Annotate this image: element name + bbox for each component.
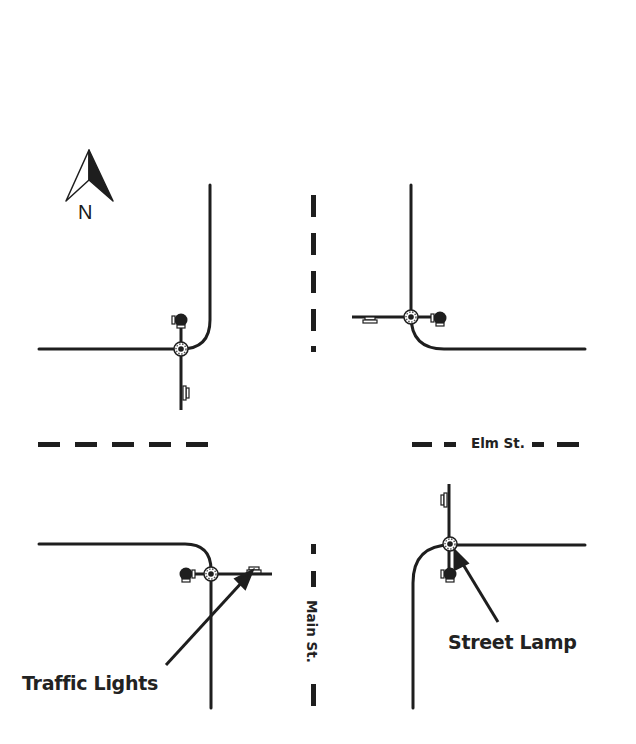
elm-street-label: Elm St.	[469, 435, 527, 451]
street-lamp-icon	[172, 314, 188, 329]
fixture-northeast	[352, 310, 447, 326]
compass-label: N	[78, 201, 92, 224]
traffic-light-icon	[183, 386, 189, 400]
traffic-lights-label: Traffic Lights	[22, 672, 158, 694]
traffic-light-icon	[363, 317, 377, 323]
fixture-southwest	[180, 567, 273, 582]
traffic-lights-arrow	[166, 580, 244, 665]
north-arrow-icon	[66, 150, 113, 201]
main-street-label: Main St.	[304, 598, 320, 665]
street-lamp-arrow	[461, 561, 498, 622]
lamp-base-icon	[174, 342, 188, 356]
intersection-diagram: N Elm St. Main St. Traffic Lights Street…	[0, 0, 636, 744]
fixture-northwest	[172, 314, 189, 411]
lamp-base-icon	[404, 310, 418, 324]
street-lamp-icon	[431, 312, 447, 327]
street-lamp-label: Street Lamp	[448, 631, 577, 653]
lamp-base-icon	[204, 567, 218, 581]
traffic-light-icon	[441, 493, 447, 507]
street-lamp-icon	[180, 568, 196, 583]
curb-southeast	[413, 545, 585, 708]
